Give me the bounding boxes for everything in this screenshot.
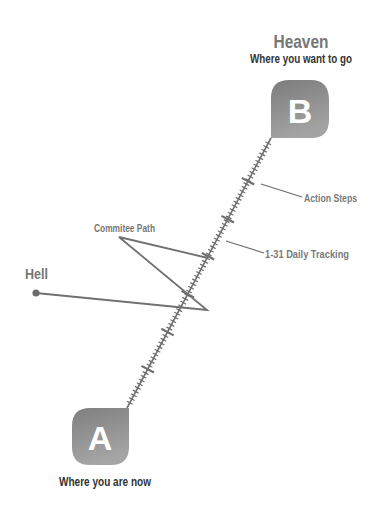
committee-zigzag-path [32, 237, 208, 310]
daily-tracking-leader [226, 241, 264, 253]
origin-subtitle: Where you are now [59, 475, 152, 489]
daily-tracking-label: 1-31 Daily Tracking [265, 248, 349, 260]
action-steps-label: Action Steps [304, 192, 357, 204]
hell-point-marker [32, 289, 39, 296]
destination-badge: B [271, 80, 329, 138]
main-track [127, 138, 271, 408]
goal-path-diagram: B A Heaven Where you want to go Where yo… [0, 0, 379, 517]
destination-badge-letter: B [288, 92, 313, 130]
origin-badge: A [72, 408, 129, 465]
origin-badge-letter: A [88, 419, 113, 457]
action-steps-leader [261, 184, 302, 197]
destination-title: Heaven [274, 31, 329, 52]
committee-path-label: Commitee Path [94, 223, 155, 234]
hell-label: Hell [25, 265, 48, 282]
destination-subtitle: Where you want to go [250, 52, 352, 66]
